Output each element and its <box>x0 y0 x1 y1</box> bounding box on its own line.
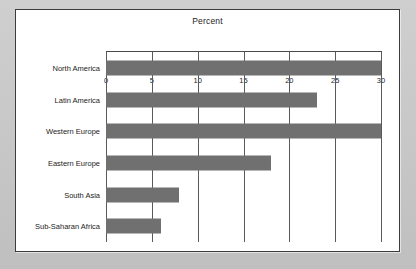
bar <box>106 124 381 139</box>
chart-panel: Percent 051015202530 North AmericaLatin … <box>15 9 400 252</box>
bar <box>106 219 161 234</box>
gridline <box>335 52 336 242</box>
chart-title: Percent <box>16 16 399 26</box>
category-label: Latin America <box>55 95 100 104</box>
category-label: Sub-Saharan Africa <box>35 222 100 231</box>
plot-area: 051015202530 North AmericaLatin AmericaW… <box>106 52 381 242</box>
screenshot-root: Percent 051015202530 North AmericaLatin … <box>0 0 416 269</box>
bar <box>106 155 271 170</box>
bar <box>106 92 317 107</box>
gridline <box>106 52 107 242</box>
gridline <box>152 52 153 242</box>
gridline <box>198 52 199 242</box>
category-label: Eastern Europe <box>48 158 100 167</box>
bar <box>106 187 179 202</box>
category-label: South Asia <box>64 190 100 199</box>
category-label: Western Europe <box>46 127 100 136</box>
category-label: North America <box>52 63 100 72</box>
bar <box>106 60 381 75</box>
gridline <box>289 52 290 242</box>
gridline <box>244 52 245 242</box>
gridline <box>381 52 382 242</box>
